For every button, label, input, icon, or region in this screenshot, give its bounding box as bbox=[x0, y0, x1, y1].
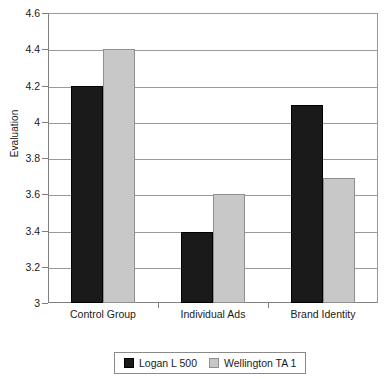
legend-entry[interactable]: Logan L 500 bbox=[124, 357, 197, 369]
x-axis-labels: Control GroupIndividual AdsBrand Identit… bbox=[48, 308, 378, 328]
x-axis-label: Control Group bbox=[48, 308, 158, 320]
legend-swatch-icon bbox=[124, 358, 134, 368]
y-axis-tick-label: 3.8 bbox=[25, 152, 40, 164]
y-axis-ticks: 33.23.43.63.844.24.44.6 bbox=[0, 13, 48, 303]
gridline bbox=[49, 87, 377, 88]
chart-legend: Logan L 500Wellington TA 1 bbox=[114, 352, 306, 374]
legend-label: Wellington TA 1 bbox=[224, 357, 296, 369]
plot-area bbox=[48, 13, 378, 303]
gridline bbox=[49, 50, 377, 51]
gridlines bbox=[49, 14, 377, 302]
x-axis-separator bbox=[158, 303, 159, 308]
gridline bbox=[49, 159, 377, 160]
gridline bbox=[49, 232, 377, 233]
legend-swatch-icon bbox=[209, 358, 219, 368]
gridline bbox=[49, 123, 377, 124]
gridline bbox=[49, 195, 377, 196]
y-axis-tick-label: 3.6 bbox=[25, 188, 40, 200]
y-axis-tick-label: 4.6 bbox=[25, 7, 40, 19]
y-axis-tick-label: 4.4 bbox=[25, 43, 40, 55]
x-axis-label: Individual Ads bbox=[158, 308, 268, 320]
x-axis-separator bbox=[268, 303, 269, 308]
y-axis-tick-mark bbox=[42, 303, 48, 304]
y-axis-tick-label: 3.2 bbox=[25, 261, 40, 273]
y-axis-tick-label: 4 bbox=[34, 116, 40, 128]
y-axis-tick-label: 4.2 bbox=[25, 80, 40, 92]
gridline bbox=[49, 268, 377, 269]
legend-entry[interactable]: Wellington TA 1 bbox=[209, 357, 296, 369]
legend-label: Logan L 500 bbox=[139, 357, 197, 369]
x-axis-label: Brand Identity bbox=[268, 308, 378, 320]
bar-chart: Evaluation 33.23.43.63.844.24.44.6 Contr… bbox=[0, 0, 390, 379]
y-axis-tick-label: 3.4 bbox=[25, 225, 40, 237]
y-axis-tick-label: 3 bbox=[34, 297, 40, 309]
